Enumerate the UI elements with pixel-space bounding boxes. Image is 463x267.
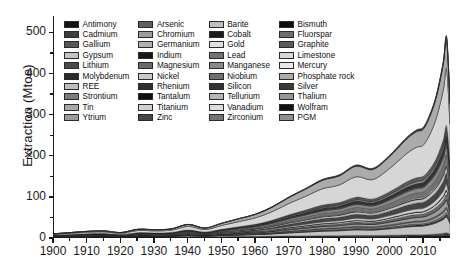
- legend-label: Tantalum: [157, 92, 190, 101]
- legend-swatch: [209, 52, 224, 59]
- legend-item[interactable]: Tin: [64, 102, 129, 112]
- y-tick-label: 400: [26, 66, 46, 80]
- legend-label: Strontium: [83, 92, 118, 101]
- tick-mark: [271, 238, 272, 241]
- x-tick-label: 2010: [410, 244, 437, 258]
- legend-item[interactable]: Cadmium: [64, 29, 129, 39]
- legend-item[interactable]: Germanium: [138, 40, 199, 50]
- legend-item[interactable]: Indium: [138, 50, 199, 60]
- legend-label: Tellurium: [227, 92, 260, 101]
- legend-label: Limestone: [297, 51, 335, 60]
- legend-label: Germanium: [157, 40, 200, 49]
- legend-item[interactable]: Magnesium: [138, 61, 199, 71]
- tick-mark: [69, 238, 70, 241]
- legend-item[interactable]: Phosphate rock: [279, 71, 354, 81]
- legend-item[interactable]: Strontium: [64, 92, 129, 102]
- legend-item[interactable]: Rhenium: [138, 81, 199, 91]
- legend-item[interactable]: Vanadium: [209, 102, 270, 112]
- legend-swatch: [64, 104, 79, 111]
- tick-mark: [103, 238, 104, 241]
- legend-label: Titanium: [157, 103, 188, 112]
- tick-mark: [50, 176, 53, 177]
- legend-swatch: [279, 93, 294, 100]
- tick-mark: [50, 52, 53, 53]
- legend-swatch: [279, 114, 294, 121]
- tick-mark: [86, 238, 87, 243]
- tick-mark: [422, 238, 423, 243]
- legend-swatch: [138, 52, 153, 59]
- x-tick-label: 1910: [73, 244, 100, 258]
- legend-label: Gold: [227, 40, 244, 49]
- legend-item[interactable]: Lead: [209, 50, 270, 60]
- legend-item[interactable]: Graphite: [279, 40, 354, 50]
- legend-item[interactable]: Tellurium: [209, 92, 270, 102]
- legend-item[interactable]: Wolfram: [279, 102, 354, 112]
- legend-item[interactable]: REE: [64, 81, 129, 91]
- legend-swatch: [279, 73, 294, 80]
- legend-swatch: [138, 93, 153, 100]
- tick-mark: [50, 135, 53, 136]
- tick-mark: [49, 73, 54, 74]
- tick-mark: [221, 238, 222, 243]
- legend-label: REE: [83, 82, 100, 91]
- legend-item[interactable]: Nickel: [138, 71, 199, 81]
- legend-swatch: [209, 31, 224, 38]
- legend-swatch: [138, 41, 153, 48]
- tick-mark: [136, 238, 137, 241]
- x-tick-label: 1900: [40, 244, 67, 258]
- legend-item[interactable]: Silicon: [209, 81, 270, 91]
- tick-mark: [49, 32, 54, 33]
- legend-item[interactable]: Barite: [209, 19, 270, 29]
- y-tick-label: 0: [39, 230, 46, 244]
- legend-item[interactable]: Silver: [279, 81, 354, 91]
- y-tick-label: 200: [26, 148, 46, 162]
- legend-swatch: [64, 62, 79, 69]
- legend-item[interactable]: Arsenic: [138, 19, 199, 29]
- legend-item[interactable]: Gallium: [64, 40, 129, 50]
- legend-item[interactable]: Mercury: [279, 61, 354, 71]
- legend-item[interactable]: PGM: [279, 113, 354, 123]
- legend-swatch: [64, 52, 79, 59]
- legend-swatch: [279, 83, 294, 90]
- legend-label: Barite: [227, 20, 248, 29]
- legend-item[interactable]: Niobium: [209, 71, 270, 81]
- legend-label: Gypsum: [83, 51, 113, 60]
- legend-item[interactable]: Gypsum: [64, 50, 129, 60]
- legend-item[interactable]: Thalium: [279, 92, 354, 102]
- legend-label: Fluorspar: [297, 30, 332, 39]
- legend-swatch: [138, 31, 153, 38]
- legend-label: Nickel: [157, 72, 179, 81]
- legend-swatch: [138, 104, 153, 111]
- legend-label: Antimony: [83, 20, 117, 29]
- legend-item[interactable]: Ytrium: [64, 113, 129, 123]
- x-tick-label: 1970: [275, 244, 302, 258]
- legend-item[interactable]: Fluorspar: [279, 29, 354, 39]
- legend-item[interactable]: Manganese: [209, 61, 270, 71]
- legend-swatch: [138, 83, 153, 90]
- legend-swatch: [209, 104, 224, 111]
- legend-item[interactable]: Bismuth: [279, 19, 354, 29]
- legend-label: Bismuth: [297, 20, 327, 29]
- legend-swatch: [138, 62, 153, 69]
- legend-swatch: [279, 104, 294, 111]
- legend-item[interactable]: Titanium: [138, 102, 199, 112]
- legend-swatch: [209, 114, 224, 121]
- legend-swatch: [279, 41, 294, 48]
- legend-item[interactable]: Gold: [209, 40, 270, 50]
- x-tick-label: 1950: [208, 244, 235, 258]
- legend-item[interactable]: Cobalt: [209, 29, 270, 39]
- tick-mark: [52, 238, 53, 243]
- legend-swatch: [279, 52, 294, 59]
- legend-item[interactable]: Zirconium: [209, 113, 270, 123]
- legend-item[interactable]: Tantalum: [138, 92, 199, 102]
- legend-item[interactable]: Limestone: [279, 50, 354, 60]
- tick-mark: [254, 238, 255, 243]
- legend-item[interactable]: Chromium: [138, 29, 199, 39]
- legend-label: Cadmium: [83, 30, 118, 39]
- legend-item[interactable]: Molybdenum: [64, 71, 129, 81]
- legend-item[interactable]: Lithium: [64, 61, 129, 71]
- legend-swatch: [64, 31, 79, 38]
- x-tick-label: 1940: [174, 244, 201, 258]
- legend-item[interactable]: Zinc: [138, 113, 199, 123]
- legend-item[interactable]: Antimony: [64, 19, 129, 29]
